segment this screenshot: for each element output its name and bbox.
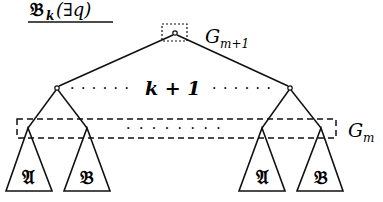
root-node (173, 31, 177, 35)
svg-text:m+1: m+1 (220, 37, 249, 51)
children-count-label: k + 1 (145, 77, 201, 99)
title-argument: (∃q) (56, 0, 91, 20)
root-group-label: G m+1 (205, 25, 249, 51)
svg-text:𝔅: 𝔅 (313, 166, 328, 188)
edge-right-b (291, 90, 321, 128)
svg-text:𝔄: 𝔄 (22, 166, 35, 188)
title-main: 𝔅 (29, 0, 44, 20)
child-node-left (55, 86, 59, 90)
svg-text:G: G (205, 25, 220, 47)
diagram-title: 𝔅 k (∃q) (28, 0, 113, 23)
children-dots-left: · · · · · · (70, 80, 130, 96)
svg-text:m: m (363, 131, 374, 145)
svg-text:𝔄: 𝔄 (256, 166, 269, 188)
structure-diagram: 𝔅 k (∃q) G m+1 · · · · · · k + 1 · · · ·… (0, 0, 383, 202)
edge-left-a (28, 90, 56, 128)
child-node-right (288, 86, 292, 90)
svg-text:𝔅: 𝔅 (79, 166, 94, 188)
lower-group-label: G m (348, 119, 374, 145)
lower-group-dots: · · · · · · · · (126, 120, 223, 136)
children-dots-right: · · · · · · (212, 80, 272, 96)
title-subscript: k (46, 9, 54, 23)
svg-text:G: G (348, 119, 363, 141)
